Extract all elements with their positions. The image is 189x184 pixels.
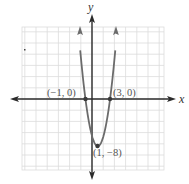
point-right-marker [108, 97, 112, 101]
y-axis-label: y [88, 1, 93, 13]
stray-dot [24, 49, 26, 51]
point-right-label: (3, 0) [113, 88, 136, 99]
x-axis [10, 96, 176, 102]
vertex-label: (1, −8) [93, 148, 122, 159]
point-left-label: (−1, 0) [47, 88, 76, 99]
point-left-marker [83, 97, 87, 101]
x-axis-label: x [179, 93, 184, 105]
